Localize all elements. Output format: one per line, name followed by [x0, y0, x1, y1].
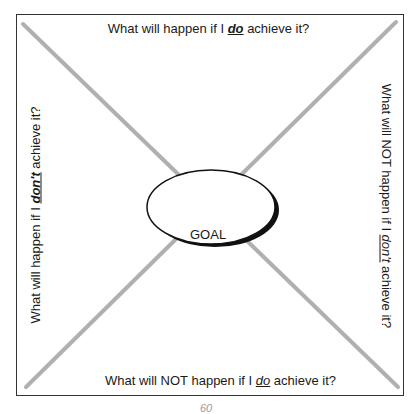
prompt-left-emphasis: don't: [28, 172, 43, 203]
prompt-top-before: What will happen if I: [108, 21, 228, 36]
prompt-top: What will happen if I do achieve it?: [0, 22, 417, 35]
prompt-top-emphasis: do: [228, 21, 244, 36]
prompt-left-before: What will happen if I: [28, 204, 43, 324]
page-number: 60: [200, 403, 212, 414]
prompt-bottom-after: achieve it?: [270, 373, 336, 388]
prompt-left-after: achieve it?: [28, 107, 43, 173]
prompt-bottom-before: What will NOT happen if I: [105, 373, 256, 388]
prompt-right-after: achieve it?: [379, 262, 394, 328]
prompt-right-before: What will NOT happen if I: [379, 84, 394, 235]
prompt-top-after: achieve it?: [244, 21, 310, 36]
prompt-bottom: What will NOT happen if I do achieve it?: [0, 374, 417, 387]
prompt-right-emphasis: don't: [379, 235, 394, 263]
prompt-right: What will NOT happen if I don't achieve …: [380, 84, 393, 328]
prompt-bottom-emphasis: do: [256, 373, 270, 388]
prompt-left: What will happen if I don't achieve it?: [29, 107, 42, 324]
goal-label: GOAL: [190, 228, 226, 241]
